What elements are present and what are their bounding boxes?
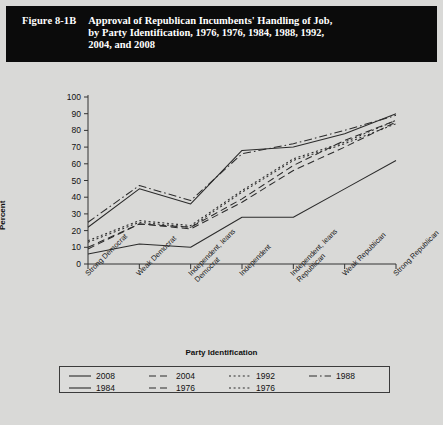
legend-item-1976-1-1[interactable]: 1976 bbox=[149, 383, 229, 393]
legend-item-2004-0-1[interactable]: 2004 bbox=[149, 371, 229, 381]
legend-row-1: 198419761976 bbox=[60, 382, 389, 393]
chart-legend: 2008200419921988198419761976 bbox=[59, 366, 390, 393]
y-tick-label: 20 bbox=[72, 226, 82, 236]
figure-title-line-2: by Party Identification, 1976, 1976, 198… bbox=[88, 27, 332, 39]
figure-title: Approval of Republican Incumbents' Handl… bbox=[88, 15, 332, 52]
y-tick-label: 0 bbox=[76, 259, 81, 269]
y-tick-label: 30 bbox=[72, 209, 82, 219]
legend-line-swatch-dotted bbox=[229, 372, 251, 380]
y-tick-label: 10 bbox=[72, 242, 82, 252]
figure-title-line-1: Approval of Republican Incumbents' Handl… bbox=[88, 15, 332, 27]
legend-line-swatch-dashed bbox=[149, 372, 171, 380]
legend-line-swatch-solid bbox=[69, 384, 91, 392]
y-tick-label: 70 bbox=[72, 142, 82, 152]
legend-label: 1988 bbox=[336, 371, 355, 381]
y-tick-label: 40 bbox=[72, 192, 82, 202]
y-tick-label: 60 bbox=[72, 159, 82, 169]
y-tick-label: 90 bbox=[72, 109, 82, 119]
series-line-1984-4 bbox=[88, 114, 396, 228]
legend-line-swatch-dashed bbox=[149, 384, 171, 392]
legend-label: 2008 bbox=[96, 371, 115, 381]
legend-item-2008-0-0[interactable]: 2008 bbox=[69, 371, 149, 381]
y-tick-label: 80 bbox=[72, 125, 82, 135]
legend-label: 1984 bbox=[96, 383, 115, 393]
figure-title-line-3: 2004, and 2008 bbox=[88, 39, 332, 51]
series-line-1976-5 bbox=[88, 122, 396, 247]
y-tick-label: 100 bbox=[67, 92, 81, 102]
x-axis-title: Party Identification bbox=[0, 348, 443, 357]
line-chart-plot: 0102030405060708090100 bbox=[0, 62, 443, 362]
y-tick-label: 50 bbox=[72, 176, 82, 186]
y-axis-title: Percent bbox=[0, 201, 7, 230]
series-line-2004-1 bbox=[88, 120, 396, 249]
legend-item-1992-0-2[interactable]: 1992 bbox=[229, 371, 309, 381]
legend-line-swatch-solid bbox=[69, 372, 91, 380]
figure-page: Figure 8-1B Approval of Republican Incum… bbox=[0, 0, 443, 425]
legend-label: 1992 bbox=[256, 371, 275, 381]
figure-title-banner: Figure 8-1B Approval of Republican Incum… bbox=[6, 6, 437, 62]
legend-row-0: 2008200419921988 bbox=[60, 370, 389, 381]
legend-item-1976-1-2[interactable]: 1976 bbox=[229, 383, 309, 393]
legend-line-swatch-dashdot bbox=[309, 372, 331, 380]
series-line-1992-2 bbox=[88, 124, 396, 243]
legend-item-1988-0-3[interactable]: 1988 bbox=[309, 371, 389, 381]
legend-label: 1976 bbox=[176, 383, 195, 393]
legend-label: 2004 bbox=[176, 371, 195, 381]
figure-number: Figure 8-1B bbox=[22, 15, 76, 26]
legend-line-swatch-dotted bbox=[229, 384, 251, 392]
legend-item-1984-1-0[interactable]: 1984 bbox=[69, 383, 149, 393]
chart-area: 0102030405060708090100 Percent Party Ide… bbox=[0, 62, 443, 362]
legend-label: 1976 bbox=[256, 383, 275, 393]
